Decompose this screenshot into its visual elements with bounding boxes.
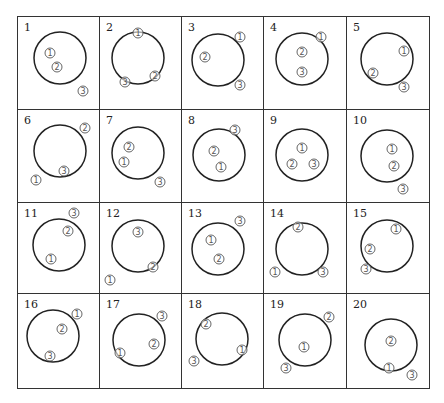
svg-text:3: 3: [401, 83, 406, 92]
circled-number-marker-icon: 2: [368, 68, 378, 78]
panel-grid: 1123212331234123512362317213832191231012…: [17, 16, 429, 388]
circled-number-marker-icon: 1: [235, 32, 245, 42]
svg-text:2: 2: [152, 72, 157, 81]
main-circle: [276, 129, 328, 181]
svg-text:1: 1: [239, 346, 244, 355]
svg-text:2: 2: [367, 245, 372, 254]
circled-number-marker-icon: 1: [72, 309, 82, 319]
svg-text:1: 1: [386, 364, 391, 373]
circled-number-marker-icon: 3: [297, 67, 307, 77]
svg-text:2: 2: [216, 255, 221, 264]
panel-17: 17321: [99, 293, 182, 389]
svg-text:1: 1: [301, 343, 306, 352]
svg-text:1: 1: [48, 255, 53, 264]
panel-figure: 123: [182, 17, 264, 110]
svg-text:2: 2: [326, 313, 331, 322]
svg-text:2: 2: [59, 325, 64, 334]
main-circle: [192, 34, 244, 86]
circled-number-marker-icon: 1: [133, 28, 143, 38]
panel-figure: 123: [347, 110, 430, 203]
circled-number-marker-icon: 2: [293, 222, 303, 232]
svg-text:2: 2: [65, 227, 70, 236]
circled-number-marker-icon: 3: [120, 77, 130, 87]
panel-figure: 123: [100, 17, 182, 110]
circled-number-marker-icon: 2: [297, 47, 307, 57]
panel-figure: 123: [18, 17, 100, 110]
circled-number-marker-icon: 2: [201, 319, 211, 329]
panel-figure: 321: [18, 203, 100, 294]
svg-text:3: 3: [311, 160, 316, 169]
main-circle: [33, 219, 85, 271]
panel-figure: 312: [182, 203, 264, 294]
circled-number-marker-icon: 1: [216, 162, 226, 172]
panel-14: 14213: [263, 202, 347, 294]
circled-number-marker-icon: 3: [309, 159, 319, 169]
svg-text:1: 1: [208, 236, 213, 245]
svg-text:2: 2: [151, 340, 156, 349]
circled-number-marker-icon: 3: [407, 370, 417, 380]
circled-number-marker-icon: 3: [235, 80, 245, 90]
circled-number-marker-icon: 3: [189, 356, 199, 366]
circled-number-marker-icon: 2: [57, 324, 67, 334]
circled-number-marker-icon: 1: [119, 157, 129, 167]
svg-text:2: 2: [299, 48, 304, 57]
panel-figure: 213: [264, 203, 347, 294]
panel-1: 1123: [17, 16, 100, 110]
panel-19: 19213: [263, 293, 347, 389]
svg-text:3: 3: [237, 81, 242, 90]
circled-number-marker-icon: 3: [155, 177, 165, 187]
circled-number-marker-icon: 1: [115, 348, 125, 358]
circled-number-marker-icon: 2: [209, 146, 219, 156]
svg-text:1: 1: [393, 225, 398, 234]
panel-figure: 321: [100, 294, 182, 389]
svg-text:3: 3: [80, 87, 85, 96]
svg-text:1: 1: [33, 176, 38, 185]
circled-number-marker-icon: 2: [389, 161, 399, 171]
svg-text:2: 2: [54, 63, 59, 72]
circled-number-marker-icon: 2: [200, 52, 210, 62]
svg-text:3: 3: [135, 228, 140, 237]
circled-number-marker-icon: 2: [63, 226, 73, 236]
panel-13: 13312: [181, 202, 264, 294]
svg-text:2: 2: [203, 320, 208, 329]
panel-11: 11321: [17, 202, 100, 294]
panel-20: 20213: [346, 293, 430, 389]
svg-text:2: 2: [391, 162, 396, 171]
panel-figure: 213: [182, 294, 264, 389]
svg-text:3: 3: [159, 312, 164, 321]
circled-number-marker-icon: 3: [157, 311, 167, 321]
panel-8: 8321: [181, 109, 264, 203]
svg-text:3: 3: [122, 78, 127, 87]
panel-figure: 123: [264, 17, 347, 110]
circled-number-marker-icon: 1: [299, 342, 309, 352]
circled-number-marker-icon: 1: [45, 48, 55, 58]
svg-text:3: 3: [363, 265, 368, 274]
circled-number-marker-icon: 1: [391, 224, 401, 234]
circled-number-marker-icon: 3: [398, 184, 408, 194]
panel-18: 18213: [181, 293, 264, 389]
svg-text:2: 2: [211, 147, 216, 156]
circled-number-marker-icon: 1: [316, 32, 326, 42]
svg-text:2: 2: [150, 263, 155, 272]
panel-figure: 123: [264, 110, 347, 203]
circled-number-marker-icon: 1: [270, 267, 280, 277]
svg-text:2: 2: [202, 53, 207, 62]
main-circle: [361, 130, 413, 182]
main-circle: [34, 32, 86, 84]
circled-number-marker-icon: 3: [235, 216, 245, 226]
panel-figure: 123: [347, 203, 430, 294]
svg-text:1: 1: [121, 158, 126, 167]
panel-10: 10123: [346, 109, 430, 203]
svg-text:1: 1: [135, 29, 140, 38]
svg-text:1: 1: [74, 310, 79, 319]
svg-text:1: 1: [237, 33, 242, 42]
svg-text:3: 3: [191, 357, 196, 366]
svg-text:3: 3: [232, 126, 237, 135]
panel-3: 3123: [181, 16, 264, 110]
svg-text:1: 1: [318, 33, 323, 42]
main-circle: [193, 129, 245, 181]
panel-16: 16123: [17, 293, 100, 389]
circled-number-marker-icon: 2: [80, 123, 90, 133]
circled-number-marker-icon: 1: [206, 235, 216, 245]
svg-text:3: 3: [47, 352, 52, 361]
